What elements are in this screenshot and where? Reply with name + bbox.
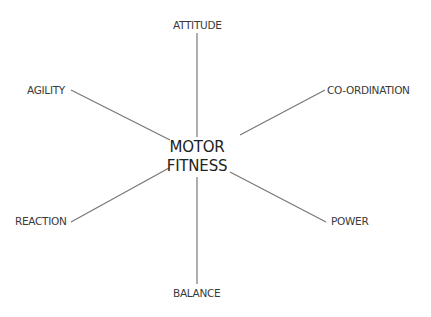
line-reaction xyxy=(71,168,169,222)
node-coordination: CO-ORDINATION xyxy=(327,85,410,96)
node-agility: AGILITY xyxy=(27,85,65,96)
node-attitude: ATTITUDE xyxy=(173,20,222,31)
center-line-1: MOTOR xyxy=(150,138,244,157)
node-balance: BALANCE xyxy=(173,288,220,299)
center-line-2: FITNESS xyxy=(150,157,244,176)
node-reaction: REACTION xyxy=(15,216,67,227)
center-node: MOTOR FITNESS xyxy=(150,138,244,176)
line-coordination xyxy=(240,90,325,135)
line-agility xyxy=(71,90,170,140)
node-power: POWER xyxy=(331,216,368,227)
line-power xyxy=(230,172,326,222)
